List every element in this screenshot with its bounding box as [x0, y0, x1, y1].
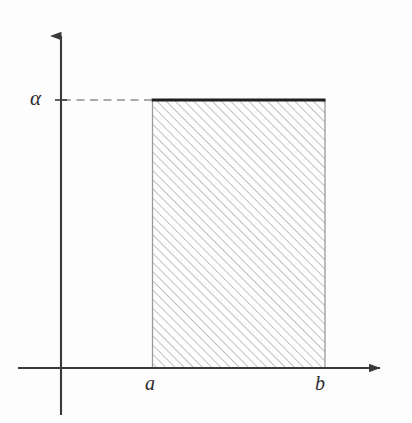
x-axis-label-b: b	[315, 373, 325, 393]
hatched-region	[153, 101, 326, 369]
x-axis-label-a: a	[145, 373, 155, 393]
figure-canvas: α a b	[0, 0, 412, 423]
y-axis-label-alpha: α	[30, 88, 41, 109]
diagram-svg	[0, 0, 412, 423]
